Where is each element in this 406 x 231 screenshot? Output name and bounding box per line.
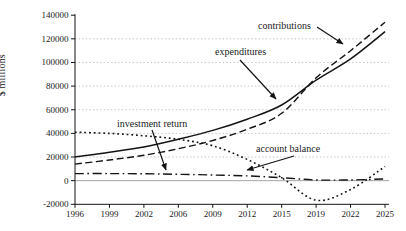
y-tick-label: 120000 [42,34,70,44]
contributions-arrow [317,27,343,44]
expenditures-arrow [240,60,276,99]
investment-return-arrow [152,130,166,170]
investment-return-line [75,174,385,181]
x-tick-label: 2002 [135,209,153,219]
y-tick-label: -20000 [43,199,69,209]
y-tick-label: 100000 [42,57,70,67]
pension-projection-chart: -200000200004000060000800001000001200001… [0,0,406,231]
x-tick-label: 1996 [66,209,85,219]
account-balance-label: account balance [256,143,321,154]
y-tick-label: 140000 [42,10,70,20]
y-tick-label: 0 [64,176,69,186]
y-tick-label: 40000 [46,128,69,138]
account-balance-line [75,132,385,200]
y-tick-label: 80000 [46,81,69,91]
y-tick-label: 20000 [46,152,69,162]
chart-figure: $ millions -2000002000040000600008000010… [0,0,406,231]
x-tick-label: 2015 [273,209,292,219]
contributions-line [75,22,385,164]
x-tick-label: 2022 [342,209,360,219]
x-tick-label: 2025 [376,209,395,219]
contributions-label: contributions [258,20,311,31]
x-tick-label: 2019 [307,209,326,219]
x-tick-label: 2012 [238,209,256,219]
expenditures-label: expenditures [215,46,266,57]
y-tick-label: 60000 [46,105,69,115]
x-tick-label: 1999 [100,209,119,219]
investment-return-label: investment return [117,118,187,129]
x-tick-label: 2009 [204,209,223,219]
x-tick-label: 2006 [169,209,188,219]
